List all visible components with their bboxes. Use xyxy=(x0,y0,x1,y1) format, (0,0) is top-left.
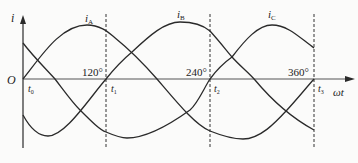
curve-label-iC: iC xyxy=(268,8,276,22)
angle-label-120: 120° xyxy=(82,66,103,78)
y-axis-arrow-icon xyxy=(20,15,26,24)
curve-label-iB: iB xyxy=(177,8,185,22)
time-label-t0: t0 xyxy=(28,83,34,95)
waveform-diagram: i O ωt iA iB iC 120° 240° 360° t0 t1 t2 … xyxy=(0,0,358,163)
angle-label-360: 360° xyxy=(288,66,309,78)
time-label-t1: t1 xyxy=(111,83,117,95)
y-axis-label: i xyxy=(11,11,14,25)
angle-label-240: 240° xyxy=(186,66,207,78)
curve-iC xyxy=(23,25,314,138)
time-label-t3: t3 xyxy=(318,83,324,95)
origin-label: O xyxy=(7,73,16,87)
curve-iA xyxy=(23,25,314,139)
curve-label-iA: iA xyxy=(85,12,93,26)
x-axis-arrow-icon xyxy=(345,76,355,82)
x-axis-label: ωt xyxy=(333,86,345,98)
waveform-svg: i O ωt iA iB iC 120° 240° 360° t0 t1 t2 … xyxy=(0,0,358,163)
time-label-t2: t2 xyxy=(214,83,220,95)
